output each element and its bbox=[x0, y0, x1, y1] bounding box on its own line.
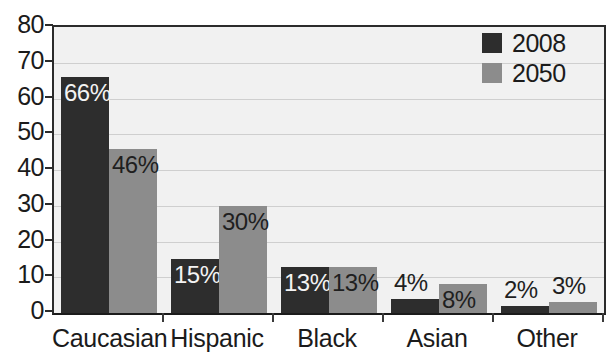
y-axis-tick-mark bbox=[45, 60, 53, 62]
legend-item-2050: 2050 bbox=[482, 58, 592, 88]
bar-value-label: 66% bbox=[64, 81, 111, 105]
x-axis-label-hispanic: Hispanic bbox=[162, 324, 272, 352]
legend-swatch-icon bbox=[482, 33, 502, 53]
y-axis-tick-mark bbox=[45, 203, 53, 205]
bar-value-label: 13% bbox=[284, 271, 331, 295]
y-axis-tick-label: 60 bbox=[0, 84, 44, 109]
y-axis-tick-label: 80 bbox=[0, 12, 44, 37]
x-axis-tick-mark bbox=[272, 313, 274, 322]
bar-value-label: 4% bbox=[394, 271, 428, 295]
bar-asian-2008 bbox=[391, 299, 439, 313]
x-axis-tick-mark bbox=[162, 313, 164, 322]
legend-swatch-icon bbox=[482, 63, 502, 83]
y-axis-tick-mark bbox=[45, 310, 53, 312]
bar-other-2008 bbox=[501, 306, 549, 313]
x-axis-label-black: Black bbox=[272, 324, 382, 352]
legend-label: 2008 bbox=[512, 31, 566, 56]
y-axis-tick-label: 70 bbox=[0, 48, 44, 73]
x-axis-tick-mark bbox=[602, 313, 604, 322]
gridline bbox=[54, 99, 604, 100]
bar-other-2050 bbox=[549, 302, 597, 313]
legend-item-2008: 2008 bbox=[482, 28, 592, 58]
y-axis-tick-mark bbox=[45, 167, 53, 169]
y-axis-tick-label: 10 bbox=[0, 262, 44, 287]
x-axis-label-asian: Asian bbox=[382, 324, 492, 352]
y-axis-tick-label: 20 bbox=[0, 227, 44, 252]
bar-value-label: 8% bbox=[442, 288, 476, 312]
bar-value-label: 15% bbox=[174, 263, 221, 287]
x-axis-tick-mark bbox=[382, 313, 384, 322]
y-axis-tick-label: 50 bbox=[0, 119, 44, 144]
bar-chart-figure: 01020304050607080 66%46%15%30%13%13%4%8%… bbox=[0, 0, 615, 360]
x-axis-label-other: Other bbox=[492, 324, 602, 352]
x-axis-tick-mark bbox=[492, 313, 494, 322]
x-axis-label-caucasian: Caucasian bbox=[52, 324, 162, 352]
chart-legend: 20082050 bbox=[482, 28, 592, 88]
legend-label: 2050 bbox=[512, 61, 566, 86]
y-axis-tick-label: 0 bbox=[0, 298, 44, 323]
y-axis-tick-mark bbox=[45, 239, 53, 241]
y-axis-tick-label: 30 bbox=[0, 191, 44, 216]
bar-value-label: 46% bbox=[112, 153, 159, 177]
bar-value-label: 2% bbox=[504, 278, 538, 302]
bar-value-label: 13% bbox=[332, 271, 379, 295]
bar-value-label: 3% bbox=[552, 274, 586, 298]
bar-caucasian-2008 bbox=[61, 77, 109, 313]
bar-value-label: 30% bbox=[222, 210, 269, 234]
y-axis-tick-label: 40 bbox=[0, 155, 44, 180]
y-axis: 01020304050607080 bbox=[0, 0, 44, 360]
y-axis-tick-mark bbox=[45, 131, 53, 133]
gridline bbox=[54, 134, 604, 135]
y-axis-tick-mark bbox=[45, 274, 53, 276]
y-axis-tick-mark bbox=[45, 24, 53, 26]
y-axis-tick-mark bbox=[45, 96, 53, 98]
